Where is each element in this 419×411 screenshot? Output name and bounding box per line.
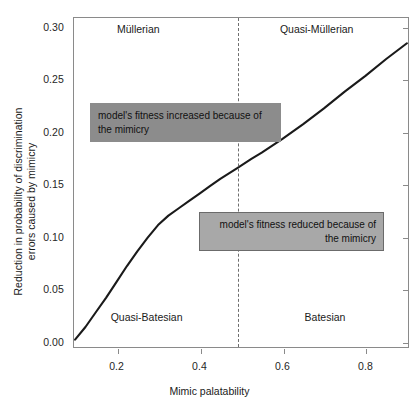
y-tick-label: 0.30 — [24, 21, 64, 33]
annotation-line-2: the mimicry — [207, 232, 376, 246]
chart-figure: MüllerianQuasi-MüllerianQuasi-BatesianBa… — [0, 0, 419, 411]
y-tick-mark — [403, 290, 408, 291]
y-axis-title-line-1: Reduction in probability of discriminati… — [12, 62, 25, 342]
y-tick-mark — [403, 80, 408, 81]
region-label-quasi-mullerian: Quasi-Müllerian — [280, 23, 354, 35]
annotation-fitness-reduced: model's fitness reduced because of the m… — [199, 212, 384, 251]
x-axis-title: Mimic palatability — [0, 385, 419, 397]
annotation-line-1: model's fitness reduced because of — [207, 218, 376, 232]
x-tick-mark — [366, 349, 367, 354]
region-label-quasi-batesian: Quasi-Batesian — [111, 311, 183, 323]
x-tick-label: 0.4 — [175, 360, 225, 372]
annotation-line-2: the mimicry — [98, 123, 273, 137]
y-tick-mark — [403, 238, 408, 239]
x-tick-mark — [118, 349, 119, 354]
plot-area: MüllerianQuasi-MüllerianQuasi-BatesianBa… — [73, 17, 409, 348]
y-axis-title: Reduction in probability of discriminati… — [12, 62, 37, 342]
threshold-dashed-line — [238, 18, 239, 347]
x-tick-label: 0.8 — [340, 360, 390, 372]
y-tick-mark — [403, 343, 408, 344]
annotation-fitness-increased: model's fitness increased because of the… — [90, 103, 281, 142]
y-tick-mark — [403, 185, 408, 186]
x-tick-label: 0.6 — [258, 360, 308, 372]
y-axis-title-line-2: errors caused by mimicry — [24, 62, 37, 342]
x-tick-mark — [201, 349, 202, 354]
x-tick-mark — [284, 349, 285, 354]
region-label-batesian: Batesian — [305, 311, 346, 323]
x-tick-label: 0.2 — [92, 360, 142, 372]
y-tick-mark — [403, 133, 408, 134]
region-label-mullerian: Müllerian — [117, 23, 160, 35]
annotation-line-1: model's fitness increased because of — [98, 109, 273, 123]
y-tick-mark — [403, 28, 408, 29]
